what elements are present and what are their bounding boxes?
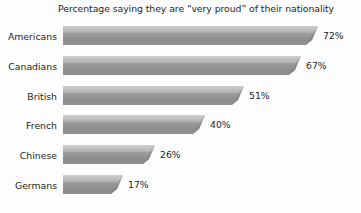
bar-row: British51% — [0, 85, 361, 111]
value-label: 26% — [160, 149, 181, 160]
category-label: Chinese — [0, 150, 57, 161]
bar-shape — [63, 175, 123, 195]
bar-shape — [63, 26, 318, 46]
chart-title: Percentage saying they are “very proud” … — [58, 3, 320, 14]
value-label: 67% — [306, 60, 327, 71]
bar-shape — [63, 145, 155, 165]
bar-row: Canadians67% — [0, 55, 361, 81]
bar — [63, 175, 123, 195]
category-label: Germans — [0, 180, 57, 191]
category-label: Canadians — [0, 61, 57, 72]
bar-shape — [63, 86, 244, 106]
bar-row: Chinese26% — [0, 144, 361, 170]
category-label: Americans — [0, 31, 57, 42]
bar-row: Germans17% — [0, 174, 361, 200]
bar-shape — [63, 56, 301, 76]
bar-shape — [63, 115, 205, 135]
bar-chart: Percentage saying they are “very proud” … — [0, 0, 361, 213]
category-label: British — [0, 91, 57, 102]
bar — [63, 86, 244, 106]
value-label: 72% — [323, 30, 344, 41]
bar — [63, 26, 318, 46]
bar — [63, 145, 155, 165]
bar — [63, 56, 301, 76]
bar-row: French40% — [0, 114, 361, 140]
value-label: 17% — [128, 179, 149, 190]
value-label: 51% — [249, 90, 270, 101]
value-label: 40% — [210, 119, 231, 130]
bar — [63, 115, 205, 135]
category-label: French — [0, 120, 57, 131]
bar-row: Americans72% — [0, 25, 361, 51]
